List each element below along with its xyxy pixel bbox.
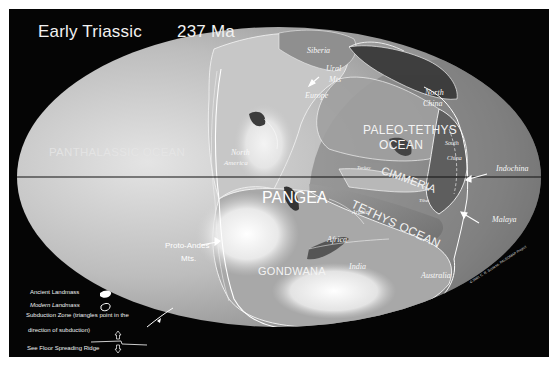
gondwana-label: GONDWANA (258, 265, 326, 277)
arabia-label: Arabia (352, 209, 369, 215)
map-frame: Early Triassic 237 Ma PANTHALASSIC OCEAN… (9, 9, 549, 357)
era-label: Early Triassic (38, 22, 142, 41)
europe-label: Europe (305, 91, 328, 100)
india-label: India (349, 262, 366, 271)
map-title: Early Triassic 237 Ma (38, 22, 142, 42)
modern-landmass-swatch (101, 303, 110, 310)
proto-andes-label-line1: Proto-Andes (165, 241, 209, 250)
legend-ancient-landmass: Ancient Landmass (30, 289, 79, 295)
legend-subduction-line1: Subduction Zone (triangles point in the (26, 312, 129, 318)
legend-modern-landmass: Modern Landmass (30, 302, 80, 308)
panthalassic-ocean-label: PANTHALASSIC OCEAN (49, 146, 185, 158)
paleo-tethys-label-line1: PALEO-TETHYS (363, 123, 457, 137)
pangea-label: PANGEA (262, 189, 328, 207)
australia-label: Australia (421, 271, 451, 280)
proto-andes-label-line2: Mts. (181, 254, 196, 263)
age-label: 237 Ma (177, 22, 235, 42)
north-america-label-line1: North (231, 148, 250, 157)
ural-mts-label-line1: Ural (326, 64, 341, 73)
ancient-landmass-swatch (100, 290, 111, 297)
ural-mts-label-line2: Mts (329, 75, 341, 84)
turkey-label: Turkey (357, 165, 371, 170)
south-china-label-line2: China (447, 155, 462, 161)
siberia-label: Siberia (307, 46, 330, 55)
subduction-arrow-icon (115, 331, 121, 339)
ridge-arrow-icon (115, 345, 121, 353)
south-china-label-line1: South (445, 140, 459, 146)
subduction-zone-line (147, 308, 173, 327)
africa-label: Africa (327, 235, 347, 244)
north-china-label-line1: North (425, 88, 444, 97)
indochina-label: Indochina (496, 164, 528, 173)
malaya-label: Malaya (492, 215, 516, 224)
north-china-label-line2: China (423, 99, 443, 108)
legend-ridge: See Floor Spreading Ridge (27, 345, 99, 351)
spreading-ridge-line (91, 341, 121, 342)
tibet-label: Tibet (419, 198, 429, 203)
paleo-tethys-label-line2: OCEAN (379, 138, 423, 152)
north-america-label-line2: America (224, 159, 248, 167)
legend-subduction-line2: direction of subduction) (28, 327, 90, 333)
paleogeographic-map (9, 9, 549, 357)
